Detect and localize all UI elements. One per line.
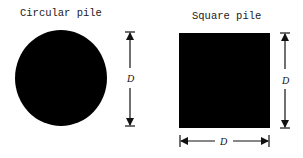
- circular-pile: [15, 30, 107, 126]
- square-vertical-dimension-label: D: [281, 75, 290, 86]
- square-horizontal-dimension-label: D: [219, 136, 228, 147]
- pile-diagram: D D D: [0, 0, 303, 158]
- square-pile: [179, 33, 270, 128]
- square-cross-section: [179, 33, 270, 128]
- circle-dimension-label: D: [126, 73, 135, 84]
- circle-cross-section: [15, 30, 107, 126]
